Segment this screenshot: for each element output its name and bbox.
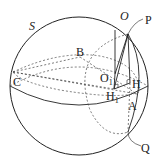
label-O: O <box>120 9 129 23</box>
small-circle-cba <box>13 55 139 96</box>
edge-CH1 <box>13 72 114 89</box>
line-P-H1 <box>114 34 128 89</box>
label-sphere-S: S <box>29 19 35 33</box>
diagram-canvas: S O P B C O1 H H1 A Q <box>0 0 157 163</box>
label-P: P <box>145 13 152 27</box>
leader-P <box>128 19 143 34</box>
label-O1: O1 <box>100 71 113 87</box>
line-P-H <box>128 34 130 83</box>
label-C: C <box>13 75 21 89</box>
label-A: A <box>128 99 137 113</box>
leader-Q <box>128 132 141 146</box>
sphere-geometry-diagram: S O P B C O1 H H1 A Q <box>0 0 157 163</box>
label-H: H <box>132 77 141 91</box>
label-H1: H1 <box>106 89 119 105</box>
label-B: B <box>76 45 84 59</box>
label-Q: Q <box>141 141 150 155</box>
edge-CB <box>13 57 80 72</box>
